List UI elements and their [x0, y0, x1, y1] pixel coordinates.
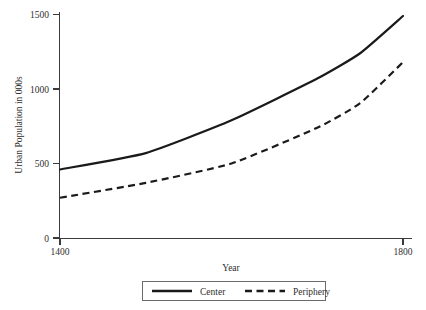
legend-label-center: Center [200, 287, 226, 297]
chart-legend: Center Periphery [143, 282, 331, 301]
y-tick-label-1500: 1500 [30, 10, 49, 20]
chart-container: 1500 1000 500 0 1400 1800 Year Urban Pop… [0, 0, 426, 310]
y-axis-ticks [53, 15, 60, 239]
y-axis-title: Urban Population in 000s [14, 76, 24, 174]
x-tick-label-1800: 1800 [394, 247, 413, 257]
x-axis-title: Year [222, 263, 240, 273]
x-axis-ticks [60, 239, 403, 245]
x-tick-label-1400: 1400 [51, 247, 70, 257]
series-line-periphery [60, 62, 403, 198]
y-tick-label-0: 0 [44, 234, 49, 244]
legend-label-periphery: Periphery [293, 287, 330, 297]
series-line-center [60, 16, 403, 169]
y-tick-label-1000: 1000 [30, 85, 49, 95]
y-tick-label-500: 500 [35, 159, 50, 169]
line-chart: 1500 1000 500 0 1400 1800 Year Urban Pop… [0, 0, 426, 310]
